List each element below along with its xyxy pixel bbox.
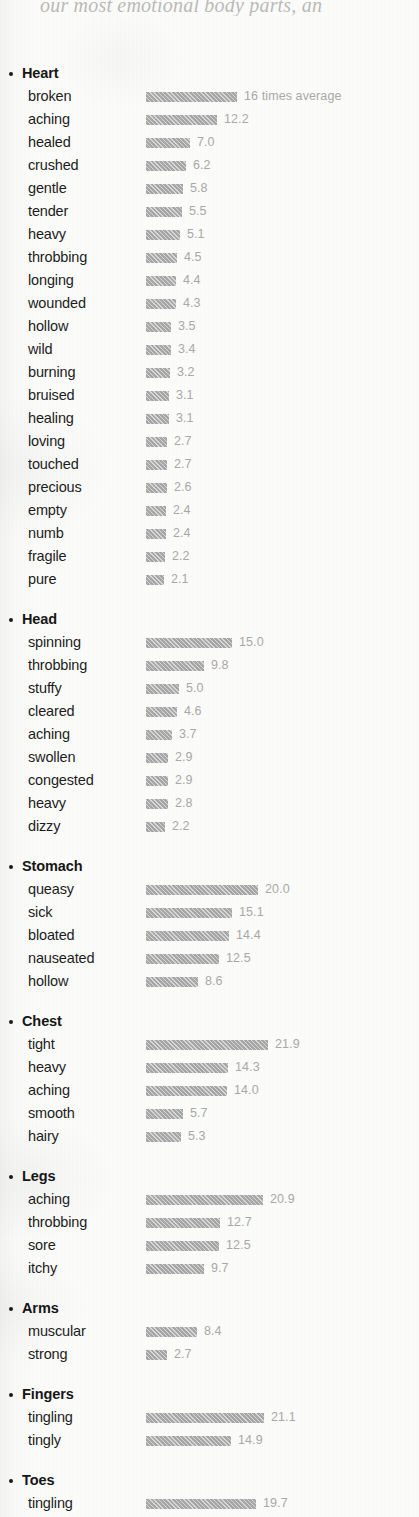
- bar-value-label: 2.9: [175, 746, 193, 769]
- bar-track: [146, 684, 179, 694]
- bar-track: [146, 776, 168, 786]
- bar-value-label: 5.1: [187, 223, 205, 246]
- bar-fill: [146, 184, 183, 194]
- bar-track: [146, 230, 180, 240]
- bar-track: [146, 552, 165, 562]
- section-legs: Legsaching20.9throbbing12.7sore12.5itchy…: [0, 1165, 419, 1280]
- section-heading-label: Stomach: [22, 858, 83, 874]
- section-spacer: [0, 591, 419, 608]
- section-heading-label: Fingers: [22, 1386, 74, 1402]
- section-spacer: [0, 1280, 419, 1297]
- bar-fill: [146, 138, 190, 148]
- bar-row-label: smooth: [28, 1102, 75, 1125]
- bar-value-label: 20.9: [270, 1188, 295, 1211]
- bar-track: [146, 1195, 263, 1205]
- bar-value-label: 4.4: [183, 269, 201, 292]
- bar-fill: [146, 115, 217, 125]
- bar-row: throbbing9.8: [0, 654, 419, 677]
- bar-fill: [146, 575, 164, 585]
- bar-row-label: wild: [28, 338, 52, 361]
- bar-track: [146, 299, 176, 309]
- bar-track: [146, 707, 177, 717]
- bar-row: dizzy2.2: [0, 815, 419, 838]
- document-page: our most emotional body parts, an Heartb…: [0, 0, 419, 1517]
- bar-fill: [146, 1327, 197, 1337]
- bar-row: aching14.0: [0, 1079, 419, 1102]
- bar-track: [146, 506, 166, 516]
- bullet-icon: [9, 1307, 13, 1311]
- bar-track: [146, 1413, 264, 1423]
- bar-row: tender5.5: [0, 200, 419, 223]
- bar-row-label: tight: [28, 1033, 55, 1056]
- bar-value-label: 2.7: [174, 1343, 192, 1366]
- bar-fill: [146, 799, 168, 809]
- bar-fill: [146, 1132, 181, 1142]
- bar-fill: [146, 276, 176, 286]
- bar-track: [146, 184, 183, 194]
- bar-value-label: 9.7: [211, 1257, 229, 1280]
- section-heading: Heart: [0, 62, 419, 85]
- bar-fill: [146, 391, 169, 401]
- section-spacer: [0, 1366, 419, 1383]
- bar-row-label: tingling: [28, 1406, 73, 1429]
- bar-value-label: 3.1: [176, 384, 194, 407]
- bar-row: throbbing4.5: [0, 246, 419, 269]
- bar-value-label: 12.7: [227, 1211, 252, 1234]
- section-spacer: [0, 993, 419, 1010]
- bar-fill: [146, 322, 171, 332]
- bar-value-label: 4.3: [183, 292, 201, 315]
- bar-fill: [146, 684, 179, 694]
- bar-value-label: 4.5: [184, 246, 202, 269]
- bar-value-label: 15.0: [239, 631, 264, 654]
- bar-fill: [146, 822, 165, 832]
- bar-value-label: 5.7: [190, 1102, 208, 1125]
- bar-row-label: loving: [28, 430, 65, 453]
- bar-row-label: hairy: [28, 1125, 59, 1148]
- bar-row: itchy9.7: [0, 1257, 419, 1280]
- bar-value-label: 2.2: [172, 545, 190, 568]
- bar-track: [146, 1109, 183, 1119]
- bar-row: congested2.9: [0, 769, 419, 792]
- bar-fill: [146, 1436, 231, 1446]
- bar-track: [146, 115, 217, 125]
- bar-row-label: congested: [28, 769, 94, 792]
- bar-row-label: healed: [28, 131, 71, 154]
- section-arms: Armsmuscular8.4strong2.7: [0, 1297, 419, 1366]
- bar-row-label: precious: [28, 476, 82, 499]
- bar-row-label: crushed: [28, 154, 79, 177]
- bar-row-label: strong: [28, 1343, 67, 1366]
- bar-fill: [146, 1413, 264, 1423]
- bar-row-label: stuffy: [28, 677, 62, 700]
- bar-value-label: 14.0: [234, 1079, 259, 1102]
- section-heading: Fingers: [0, 1383, 419, 1406]
- bar-row-label: aching: [28, 723, 70, 746]
- bar-value-label: 21.9: [275, 1033, 300, 1056]
- bar-value-label: 4.6: [184, 700, 202, 723]
- section-heading-label: Arms: [22, 1300, 59, 1316]
- bar-row: aching3.7: [0, 723, 419, 746]
- section-heading-label: Chest: [22, 1013, 62, 1029]
- bar-track: [146, 908, 232, 918]
- bar-value-label: 19.7: [263, 1492, 288, 1515]
- bar-row: touched2.7: [0, 453, 419, 476]
- bar-row: bruised3.1: [0, 384, 419, 407]
- section-heading: Toes: [0, 1469, 419, 1492]
- bar-fill: [146, 253, 177, 263]
- bar-value-label: 3.1: [176, 407, 194, 430]
- section-heading-label: Toes: [22, 1472, 54, 1488]
- bar-fill: [146, 885, 258, 895]
- bar-row-label: queasy: [28, 878, 74, 901]
- bar-fill: [146, 638, 232, 648]
- bar-value-label: 5.0: [186, 677, 204, 700]
- bar-row: hollow3.5: [0, 315, 419, 338]
- bar-row: tight21.9: [0, 1033, 419, 1056]
- bar-row-label: healing: [28, 407, 74, 430]
- bar-row-label: tender: [28, 200, 68, 223]
- bar-row: burning3.2: [0, 361, 419, 384]
- bar-row: throbbing12.7: [0, 1211, 419, 1234]
- bar-track: [146, 161, 186, 171]
- bar-row-label: itchy: [28, 1257, 57, 1280]
- bar-row: spinning15.0: [0, 631, 419, 654]
- bar-track: [146, 799, 168, 809]
- bar-row: wounded4.3: [0, 292, 419, 315]
